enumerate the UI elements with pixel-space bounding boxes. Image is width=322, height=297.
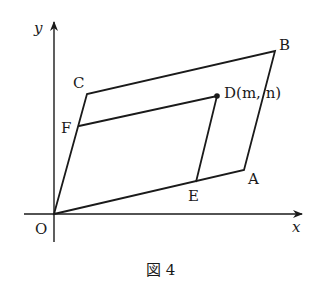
point-d-dot — [214, 93, 220, 99]
parallelogram-oabc — [54, 51, 275, 214]
point-e-label: E — [188, 187, 199, 205]
origin-label: O — [35, 220, 47, 238]
point-d-label: D(m, n) — [224, 84, 281, 102]
y-axis-label: y — [33, 19, 43, 37]
parallelogram-diagram: y x O C F B A E D(m, n) 図 4 — [0, 0, 322, 297]
point-f-label: F — [61, 119, 71, 137]
point-b-label: B — [279, 36, 290, 54]
point-a-label: A — [247, 170, 259, 188]
x-axis-label: x — [292, 218, 301, 236]
figure-caption: 図 4 — [146, 261, 175, 279]
point-c-label: C — [73, 74, 84, 92]
segment-fde — [79, 96, 217, 182]
